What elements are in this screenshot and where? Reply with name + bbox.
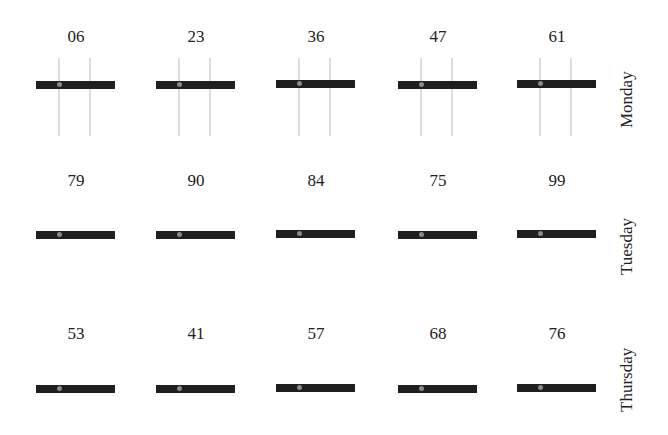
reference-line [539,58,541,136]
bar [398,231,477,239]
panel-monday-1: 06 [36,27,116,137]
reference-line [58,58,60,136]
panel-title: 06 [36,27,116,47]
bar [156,231,235,239]
reference-line [178,58,180,136]
reference-line [451,58,453,136]
panel-tuesday-2: 90 [156,171,236,251]
panel-title: 57 [276,324,356,344]
point-marker [419,232,424,237]
strip-label-thursday: Thursday [617,348,637,412]
bar [398,81,477,89]
reference-line [420,58,422,136]
point-marker [538,81,543,86]
panel-title: 61 [517,27,597,47]
bar [156,385,235,393]
point-marker [538,385,543,390]
panel-monday-3: 36 [276,27,356,137]
panel-tuesday-3: 84 [276,171,356,251]
reference-line [329,58,331,136]
point-marker [57,232,62,237]
bar [517,384,596,392]
bar [276,80,355,88]
panel-title: 36 [276,27,356,47]
bar [398,385,477,393]
strip-label-monday: Monday [617,71,637,128]
reference-line [570,58,572,136]
bar [517,230,596,238]
panel-title: 84 [276,171,356,191]
reference-line [298,58,300,136]
point-marker [419,386,424,391]
bar [276,384,355,392]
panel-title: 76 [517,324,597,344]
panel-monday-4: 47 [398,27,478,137]
panel-title: 75 [398,171,478,191]
panel-title: 79 [36,171,116,191]
bar [36,385,115,393]
bar [36,231,115,239]
point-marker [57,82,62,87]
panel-title: 23 [156,27,236,47]
panel-tuesday-5: 99 [517,171,597,251]
panel-title: 53 [36,324,116,344]
panel-thursday-2: 41 [156,324,236,404]
panel-thursday-1: 53 [36,324,116,404]
panel-title: 99 [517,171,597,191]
point-marker [177,82,182,87]
panel-title: 90 [156,171,236,191]
reference-line [89,58,91,136]
bar [276,230,355,238]
point-marker [419,82,424,87]
panel-title: 47 [398,27,478,47]
panel-tuesday-1: 79 [36,171,116,251]
strip-label-tuesday: Tuesday [617,218,637,275]
point-marker [297,231,302,236]
point-marker [297,385,302,390]
bar [36,81,115,89]
panel-thursday-5: 76 [517,324,597,404]
panel-thursday-3: 57 [276,324,356,404]
panel-title: 41 [156,324,236,344]
point-marker [538,231,543,236]
panel-title: 68 [398,324,478,344]
point-marker [177,232,182,237]
bar [517,80,596,88]
point-marker [57,386,62,391]
point-marker [177,386,182,391]
panel-monday-5: 61 [517,27,597,137]
point-marker [297,81,302,86]
panel-monday-2: 23 [156,27,236,137]
panel-thursday-4: 68 [398,324,478,404]
bar [156,81,235,89]
panel-tuesday-4: 75 [398,171,478,251]
reference-line [209,58,211,136]
